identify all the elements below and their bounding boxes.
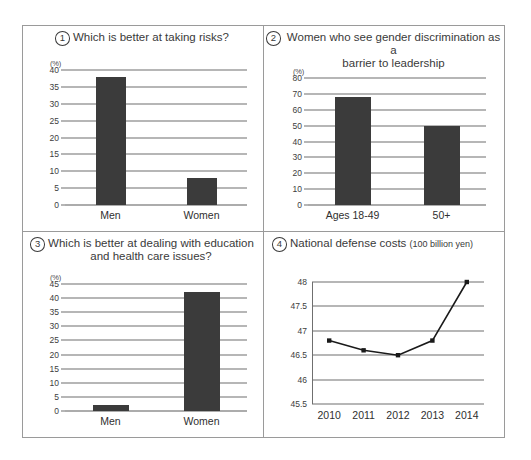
y-axis-tick-label: 40 bbox=[45, 65, 59, 75]
data-point-marker bbox=[465, 280, 469, 284]
x-axis-tick-label: Women bbox=[184, 415, 220, 427]
gridline bbox=[308, 93, 486, 94]
panel-2-title: 2 Women who see gender discrimination as… bbox=[266, 31, 503, 70]
panel-2-gender-discrimination: 2 Women who see gender discrimination as… bbox=[264, 26, 505, 232]
x-axis-tick-label: 2011 bbox=[352, 409, 375, 421]
y-axis-tick-label: 46.5 bbox=[285, 350, 307, 360]
y-axis-tick-label: 40 bbox=[288, 137, 302, 147]
gridline bbox=[65, 340, 247, 341]
panel-2-title-text: Women who see gender discrimination as a bbox=[287, 31, 500, 56]
y-axis-tick bbox=[61, 103, 65, 104]
y-axis-tick bbox=[304, 125, 308, 126]
panel-3-education-health: 3 Which is better at dealing with educat… bbox=[23, 232, 264, 438]
y-axis-tick-label: 0 bbox=[45, 406, 59, 416]
gridline bbox=[65, 312, 247, 313]
y-axis-tick-label: 10 bbox=[45, 166, 59, 176]
y-axis-tick-label: 25 bbox=[45, 116, 59, 126]
y-axis-tick bbox=[304, 93, 308, 94]
gridline bbox=[65, 86, 247, 87]
y-axis-tick-label: 15 bbox=[45, 149, 59, 159]
panel-1-title: 1 Which is better at taking risks? bbox=[23, 31, 261, 46]
y-axis-tick bbox=[61, 188, 65, 189]
gridline bbox=[65, 120, 247, 121]
y-axis-tick bbox=[61, 154, 65, 155]
panel-2-title-text-line2: barrier to leadership bbox=[342, 57, 444, 69]
gridline bbox=[65, 205, 247, 206]
panel-number-icon: 4 bbox=[272, 237, 287, 252]
panel-1-taking-risks: 1 Which is better at taking risks? (%)40… bbox=[23, 26, 264, 232]
x-axis-tick-label: 2012 bbox=[386, 409, 409, 421]
y-axis-tick-label: 46 bbox=[285, 375, 307, 385]
y-axis-tick-label: 48 bbox=[285, 277, 307, 287]
gridline bbox=[65, 298, 247, 299]
bar bbox=[184, 292, 220, 411]
y-axis-tick-label: 80 bbox=[288, 73, 302, 83]
panel-4-plot-area: 4847.54746.54645.520102011201220132014 bbox=[312, 282, 484, 404]
y-axis-tick bbox=[61, 171, 65, 172]
x-axis-tick-label: 2010 bbox=[318, 409, 341, 421]
gridline bbox=[65, 188, 247, 189]
panel-2-plot-area: (%)80706050403020100Ages 18-4950+ bbox=[308, 78, 486, 205]
charts-sheet: 1 Which is better at taking risks? (%)40… bbox=[22, 25, 505, 438]
y-axis-tick-label: 70 bbox=[288, 89, 302, 99]
panel-4-title-unit: (100 billion yen) bbox=[410, 239, 474, 249]
y-axis-tick bbox=[304, 141, 308, 142]
panel-4-title-text: National defense costs bbox=[290, 237, 406, 249]
y-axis-tick-label: 20 bbox=[45, 350, 59, 360]
data-point-marker bbox=[361, 348, 365, 352]
y-axis-tick bbox=[304, 189, 308, 190]
y-axis-tick-label: 35 bbox=[45, 82, 59, 92]
panel-1-plot-area: (%)4035302520151050MenWomen bbox=[65, 70, 247, 205]
y-axis-tick-label: 45 bbox=[45, 279, 59, 289]
y-axis-tick-label: 10 bbox=[45, 378, 59, 388]
data-point-marker bbox=[430, 338, 434, 342]
x-axis-tick-label: 2014 bbox=[455, 409, 478, 421]
gridline bbox=[65, 154, 247, 155]
y-axis-tick-label: 25 bbox=[45, 335, 59, 345]
y-axis-tick bbox=[61, 411, 65, 412]
panel-3-title: 3 Which is better at dealing with educat… bbox=[23, 237, 261, 263]
gridline bbox=[65, 137, 247, 138]
y-axis-tick bbox=[304, 109, 308, 110]
gridline bbox=[65, 368, 247, 369]
bar bbox=[93, 405, 129, 411]
gridline bbox=[65, 382, 247, 383]
data-point-marker bbox=[327, 338, 331, 342]
gridline bbox=[308, 78, 486, 79]
y-axis-tick-label: 35 bbox=[45, 307, 59, 317]
gridline bbox=[65, 326, 247, 327]
y-axis-tick-label: 10 bbox=[288, 184, 302, 194]
panel-4-title: 4 National defense costs (100 billion ye… bbox=[266, 237, 503, 252]
y-axis-tick bbox=[61, 326, 65, 327]
y-axis-tick bbox=[304, 173, 308, 174]
bar bbox=[96, 77, 126, 205]
panel-number-icon: 1 bbox=[55, 31, 70, 46]
panel-number-icon: 3 bbox=[30, 237, 45, 252]
y-axis-tick bbox=[61, 312, 65, 313]
y-axis-tick bbox=[61, 354, 65, 355]
panel-4-national-defense-costs: 4 National defense costs (100 billion ye… bbox=[264, 232, 505, 438]
gridline bbox=[65, 284, 247, 285]
y-axis-tick-label: 5 bbox=[45, 183, 59, 193]
y-axis-tick-label: 40 bbox=[45, 293, 59, 303]
y-axis-tick bbox=[304, 205, 308, 206]
bar bbox=[187, 178, 217, 205]
gridline bbox=[65, 396, 247, 397]
y-axis-tick bbox=[61, 382, 65, 383]
gridline bbox=[65, 70, 247, 71]
bar bbox=[335, 97, 371, 205]
gridline bbox=[65, 171, 247, 172]
y-axis-tick-label: 45.5 bbox=[285, 399, 307, 409]
y-axis-tick-label: 5 bbox=[45, 392, 59, 402]
y-axis-tick-label: 47 bbox=[285, 326, 307, 336]
y-axis-tick bbox=[61, 396, 65, 397]
y-axis-tick-label: 60 bbox=[288, 105, 302, 115]
y-axis-tick-label: 15 bbox=[45, 364, 59, 374]
x-axis-tick-label: Ages 18-49 bbox=[326, 209, 380, 221]
y-axis-tick-label: 30 bbox=[45, 99, 59, 109]
y-axis-tick bbox=[304, 157, 308, 158]
gridline bbox=[65, 103, 247, 104]
panel-3-title-text-line2: and health care issues? bbox=[90, 250, 211, 262]
y-axis-tick-label: 0 bbox=[288, 200, 302, 210]
x-axis-tick-label: Men bbox=[100, 415, 120, 427]
